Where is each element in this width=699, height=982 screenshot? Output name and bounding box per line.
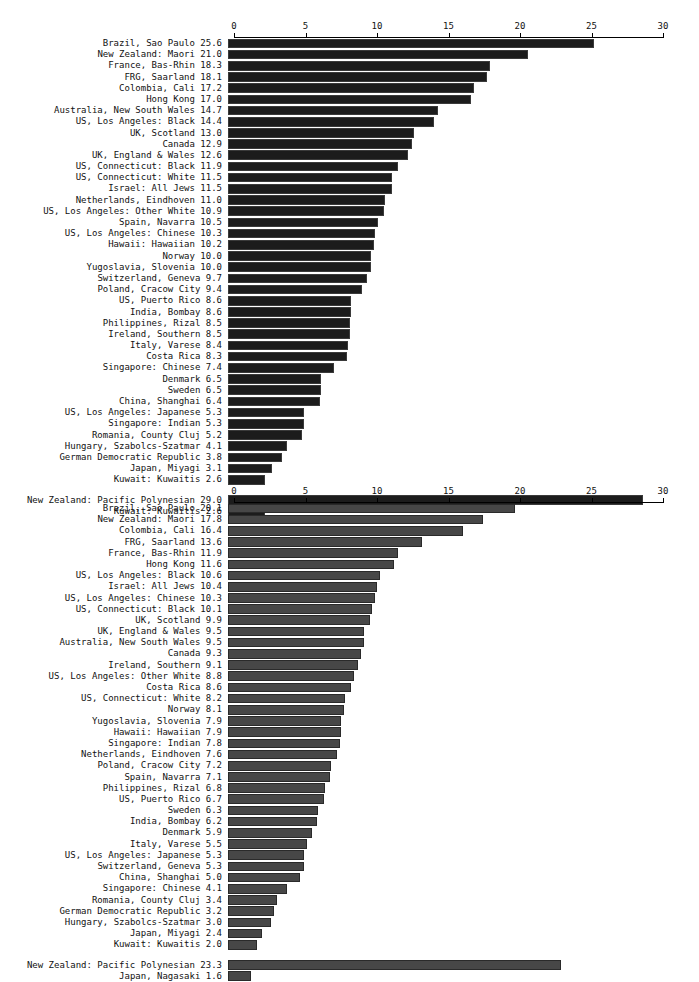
bar — [228, 419, 304, 429]
bar-row: Hong Kong 11.6 — [0, 559, 699, 570]
bar-row: US, Puerto Rico 6.7 — [0, 794, 699, 805]
bar — [228, 206, 384, 216]
bar — [228, 694, 345, 704]
bar-row: FRG, Saarland 18.1 — [0, 72, 699, 83]
bar-track — [228, 861, 693, 872]
bar-row: UK, England & Wales 9.5 — [0, 626, 699, 637]
bar-track — [228, 816, 693, 827]
bar-row: Colombia, Cali 17.2 — [0, 83, 699, 94]
bar-row-label: Ireland, Southern 9.1 — [0, 660, 228, 671]
bar — [228, 374, 321, 384]
bar-row: India, Bombay 6.2 — [0, 816, 699, 827]
bar — [228, 850, 304, 860]
bar-track — [228, 295, 693, 306]
bar-track — [228, 850, 693, 861]
bar-row-label: FRG, Saarland 18.1 — [0, 72, 228, 83]
bar-row-label: Hawaii: Hawaiian 10.2 — [0, 239, 228, 250]
bar-track — [228, 570, 693, 581]
bar-row: UK, Scotland 9.9 — [0, 615, 699, 626]
bar-track — [228, 161, 693, 172]
bar-row: Japan, Nagasaki 1.6 — [0, 971, 699, 982]
bar-track — [228, 928, 693, 939]
bar-row-label: New Zealand: Maori 21.0 — [0, 49, 228, 60]
bar-track — [228, 38, 693, 49]
bar-track — [228, 738, 693, 749]
bar-row: US, Los Angeles: Other White 8.8 — [0, 671, 699, 682]
bar-row-label: US, Los Angeles: Black 14.4 — [0, 116, 228, 127]
bar-row-label: Denmark 6.5 — [0, 374, 228, 385]
bar-row: Denmark 5.9 — [0, 827, 699, 838]
bar-track — [228, 105, 693, 116]
bar-row-label: Netherlands, Eindhoven 7.6 — [0, 749, 228, 760]
bar — [228, 839, 307, 849]
bar-row: US, Los Angeles: Chinese 10.3 — [0, 228, 699, 239]
bar-row-label: Hong Kong 17.0 — [0, 94, 228, 105]
bar-track — [228, 374, 693, 385]
bar — [228, 918, 271, 928]
bar-row-label: Spain, Navarra 7.1 — [0, 772, 228, 783]
bar — [228, 162, 398, 172]
axis-tick-label: 0 — [231, 486, 236, 496]
bar — [228, 671, 354, 681]
bar — [228, 352, 347, 362]
bar-row: Brazil, Sao Paulo 25.6 — [0, 38, 699, 49]
bar-row-label: Singapore: Chinese 7.4 — [0, 362, 228, 373]
bar-row-label: German Democratic Republic 3.2 — [0, 906, 228, 917]
bar-chart-bottom: 051015202530 Brazil, Sao Paulo 20.1New Z… — [0, 487, 699, 982]
bar-track — [228, 329, 693, 340]
bar-row: German Democratic Republic 3.8 — [0, 452, 699, 463]
bar — [228, 526, 463, 536]
bar-row-label: New Zealand: Maori 17.8 — [0, 514, 228, 525]
bar — [228, 307, 351, 317]
axis-tick-label: 0 — [231, 21, 236, 31]
bar — [228, 817, 317, 827]
bar-row-label: Romania, County Cluj 3.4 — [0, 895, 228, 906]
bar-row-label: US, Los Angeles: Other White 10.9 — [0, 206, 228, 217]
bar-track — [228, 525, 693, 536]
bar — [228, 627, 364, 637]
bar-row-label: UK, England & Wales 9.5 — [0, 626, 228, 637]
bar-row-label: Australia, New South Wales 9.5 — [0, 637, 228, 648]
bar-track — [228, 60, 693, 71]
bar-row-label: Singapore: Indian 7.8 — [0, 738, 228, 749]
bar — [228, 274, 367, 284]
bar — [228, 960, 561, 970]
bar-row-label: UK, England & Wales 12.6 — [0, 150, 228, 161]
bar-row: US, Connecticut: Black 10.1 — [0, 604, 699, 615]
bar-track — [228, 704, 693, 715]
bar — [228, 862, 304, 872]
bar — [228, 296, 351, 306]
bar-row-label: Hawaii: Hawaiian 7.9 — [0, 727, 228, 738]
bar — [228, 615, 370, 625]
bar — [228, 548, 398, 558]
bar-track — [228, 94, 693, 105]
bar-track — [228, 671, 693, 682]
bar-track — [228, 648, 693, 659]
bar-row: Spain, Navarra 7.1 — [0, 772, 699, 783]
bar-row: US, Connecticut: White 11.5 — [0, 172, 699, 183]
bar — [228, 683, 351, 693]
bar — [228, 408, 304, 418]
bar-row: Hungary, Szabolcs-Szatmar 4.1 — [0, 441, 699, 452]
bar-track — [228, 604, 693, 615]
bar-row-label: Poland, Cracow City 9.4 — [0, 284, 228, 295]
bar-row: Hong Kong 17.0 — [0, 94, 699, 105]
bar-rows-bottom-extra: New Zealand: Pacific Polynesian 23.3Japa… — [0, 960, 699, 982]
bar-row-label: Costa Rica 8.6 — [0, 682, 228, 693]
bar-row-label: Costa Rica 8.3 — [0, 351, 228, 362]
bar-track — [228, 626, 693, 637]
bar-row-label: Yugoslavia, Slovenia 10.0 — [0, 262, 228, 273]
bar — [228, 441, 287, 451]
bar-row-label: Kuwait: Kuwaitis 2.0 — [0, 939, 228, 950]
bar-row-label: Israel: All Jews 10.4 — [0, 581, 228, 592]
bar-row-label: UK, Scotland 9.9 — [0, 615, 228, 626]
bar-track — [228, 83, 693, 94]
bar-row: France, Bas-Rhin 18.3 — [0, 60, 699, 71]
bar — [228, 929, 262, 939]
bar-track — [228, 430, 693, 441]
bar-track — [228, 463, 693, 474]
bar-row-label: Spain, Navarra 10.5 — [0, 217, 228, 228]
bar — [228, 117, 434, 127]
bar-row: New Zealand: Maori 21.0 — [0, 49, 699, 60]
bar-row-label: Japan, Nagasaki 1.6 — [0, 971, 228, 982]
